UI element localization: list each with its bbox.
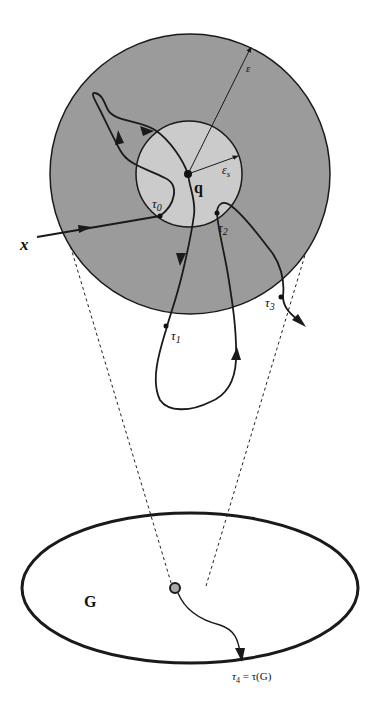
domain-G — [22, 513, 358, 663]
tau2-marker — [215, 211, 220, 216]
label-tau4: τ4 = τ(G) — [232, 670, 272, 685]
trajectory-to-boundary — [178, 593, 240, 652]
tau0-marker — [158, 214, 163, 219]
label-q: q — [194, 179, 203, 197]
label-tau3: τ3 — [265, 295, 275, 312]
label-x: x — [19, 235, 29, 254]
projection-point — [170, 583, 180, 593]
tau3-marker — [279, 295, 284, 300]
tau1-marker — [164, 324, 169, 329]
label-G: G — [84, 593, 97, 610]
point-q — [184, 170, 192, 178]
diagram-canvas: ε εs q x τ0 τ1 τ2 τ3 G τ4 = τ(G) — [0, 0, 380, 704]
label-epsilon: ε — [246, 62, 251, 74]
label-tau1: τ1 — [171, 328, 181, 345]
